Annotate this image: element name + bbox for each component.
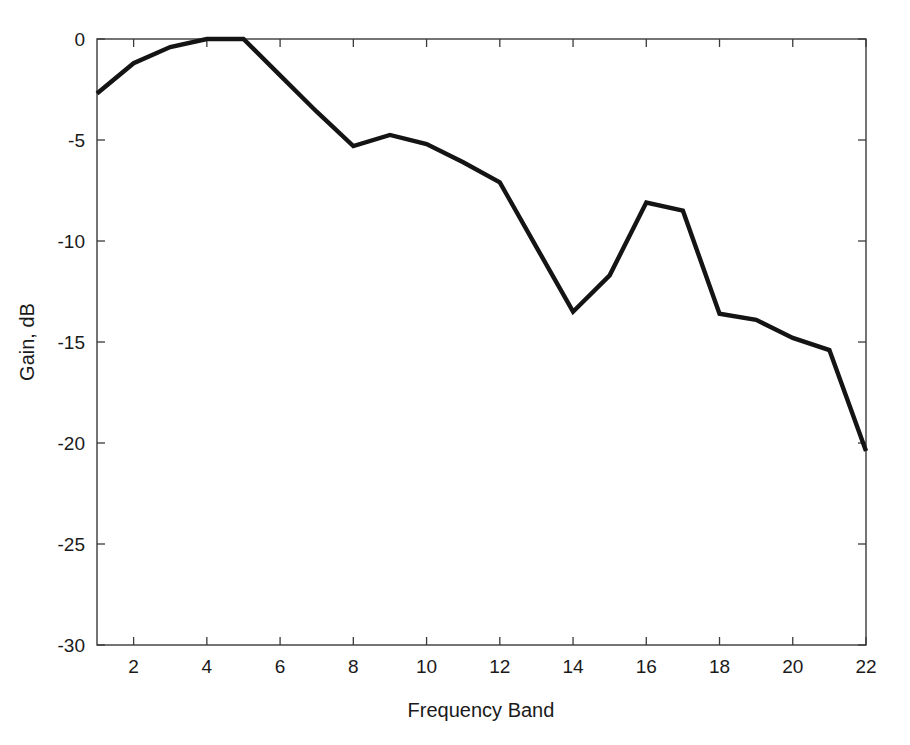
- x-axis-ticks: [134, 39, 866, 645]
- y-tick-label: -5: [68, 130, 85, 151]
- y-axis-tick-labels: 0-5-10-15-20-25-30: [58, 29, 85, 656]
- plot-frame: [97, 39, 866, 645]
- x-axis-tick-labels: 246810121416182022: [128, 656, 876, 677]
- line-chart-plot: 246810121416182022 0-5-10-15-20-25-30 Fr…: [0, 0, 910, 745]
- x-axis-title: Frequency Band: [408, 699, 555, 721]
- y-tick-label: -15: [58, 332, 85, 353]
- data-series-group: [97, 39, 866, 451]
- x-tick-label: 18: [709, 656, 730, 677]
- y-axis-title: Gain, dB: [16, 303, 38, 381]
- x-tick-label: 4: [202, 656, 213, 677]
- x-tick-label: 20: [782, 656, 803, 677]
- x-tick-label: 14: [562, 656, 584, 677]
- y-axis-ticks: [97, 39, 866, 645]
- y-tick-label: 0: [74, 29, 85, 50]
- x-tick-label: 12: [489, 656, 510, 677]
- x-tick-label: 8: [348, 656, 359, 677]
- x-tick-label: 22: [855, 656, 876, 677]
- y-tick-label: -30: [58, 635, 85, 656]
- series-line-gain: [97, 39, 866, 451]
- x-tick-label: 10: [416, 656, 437, 677]
- x-tick-label: 2: [128, 656, 139, 677]
- x-tick-label: 6: [275, 656, 286, 677]
- y-tick-label: -25: [58, 534, 85, 555]
- y-tick-label: -20: [58, 433, 85, 454]
- y-tick-label: -10: [58, 231, 85, 252]
- chart-figure: 246810121416182022 0-5-10-15-20-25-30 Fr…: [0, 0, 910, 745]
- x-tick-label: 16: [636, 656, 657, 677]
